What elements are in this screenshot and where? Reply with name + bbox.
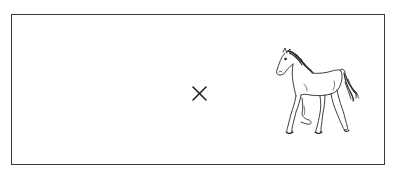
horse-illustration: [274, 46, 366, 138]
cross-mark-icon: [190, 84, 209, 103]
